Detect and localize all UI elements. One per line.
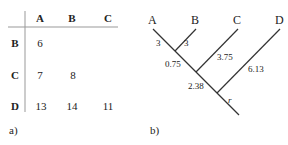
col-header-c: C bbox=[98, 12, 118, 24]
caption-a: a) bbox=[9, 124, 18, 136]
matrix-cell: 8 bbox=[63, 69, 83, 81]
leaf-label-b: B bbox=[191, 13, 199, 28]
leaf-label-d: D bbox=[275, 13, 284, 28]
tree-branches bbox=[144, 0, 288, 145]
caption-b: b) bbox=[150, 124, 159, 136]
branch-length-d: 6.13 bbox=[248, 64, 264, 74]
row-header-d: D bbox=[5, 100, 25, 112]
leaf-label-a: A bbox=[148, 13, 157, 28]
distance-matrix: A B C B C D 6 7 8 13 14 11 a) bbox=[0, 0, 144, 145]
branch-length-c: 3.75 bbox=[217, 52, 233, 62]
col-header-a: A bbox=[30, 12, 50, 24]
matrix-cell: 13 bbox=[31, 100, 51, 112]
branch-length-abc: 2.38 bbox=[188, 81, 204, 91]
leaf-label-c: C bbox=[233, 13, 241, 28]
branch-length-ab: 0.75 bbox=[165, 59, 181, 69]
root-label: r bbox=[228, 95, 232, 105]
col-header-b: B bbox=[62, 12, 82, 24]
phylogenetic-tree: A B C D 3 3 0.75 3.75 2.38 6.13 r b) bbox=[144, 0, 288, 145]
matrix-cell: 6 bbox=[30, 37, 50, 49]
row-header-c: C bbox=[5, 69, 25, 81]
row-header-b: B bbox=[5, 37, 25, 49]
matrix-cell: 14 bbox=[62, 100, 82, 112]
matrix-cell: 7 bbox=[30, 69, 50, 81]
branch-length-a: 3 bbox=[156, 38, 161, 48]
branch-length-b: 3 bbox=[184, 38, 189, 48]
matrix-cell: 11 bbox=[98, 100, 118, 112]
